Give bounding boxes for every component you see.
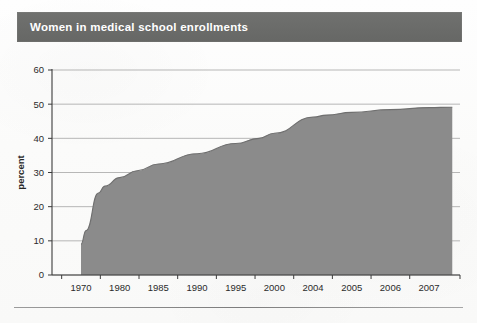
y-tick-label: 50 (33, 99, 44, 110)
y-tick-label: 10 (33, 235, 44, 246)
area-chart: 0102030405060 19701980198519901995200020… (0, 44, 477, 294)
chart-svg: 0102030405060 19701980198519901995200020… (0, 44, 477, 294)
x-tick-label: 1985 (148, 282, 169, 293)
page-title: Women in medical school enrollments (30, 21, 248, 33)
area-fill (81, 107, 452, 275)
x-tick-label: 2007 (418, 282, 439, 293)
y-axis-label: percent (15, 155, 26, 190)
chart-title-bar: Women in medical school enrollments (17, 12, 462, 42)
x-tick-label: 1995 (225, 282, 246, 293)
x-tick-label: 1990 (186, 282, 207, 293)
x-tick-label: 2000 (264, 282, 285, 293)
y-tick-label: 20 (33, 201, 44, 212)
x-tick-label: 2005 (341, 282, 362, 293)
area-series (81, 107, 452, 275)
y-tick-labels: 0102030405060 (33, 64, 44, 280)
x-tick-label: 1980 (109, 282, 130, 293)
y-tick-label: 60 (33, 64, 44, 75)
x-tick-labels: 1970198019851990199520002004200520062007 (70, 282, 439, 293)
x-tick-label: 2004 (302, 282, 323, 293)
footer-divider (14, 307, 463, 308)
y-tick-label: 0 (39, 269, 44, 280)
y-axis-label: percent (15, 155, 26, 190)
x-tick-label: 2006 (380, 282, 401, 293)
y-tick-label: 40 (33, 133, 44, 144)
x-tick-label: 1970 (70, 282, 91, 293)
y-tick-label: 30 (33, 167, 44, 178)
